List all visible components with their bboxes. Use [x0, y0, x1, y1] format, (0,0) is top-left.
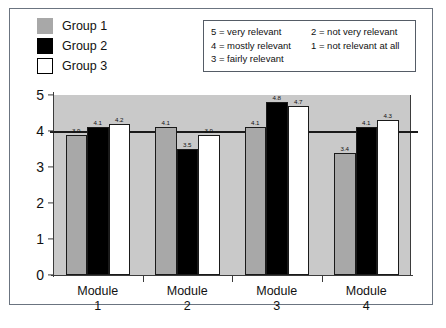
y-tick-mark: [48, 202, 54, 203]
y-tick-label: 4: [10, 123, 44, 139]
x-category-label: Module4: [346, 284, 387, 314]
x-tick-mark: [322, 275, 323, 282]
x-category-line: 4: [346, 299, 387, 314]
y-tick-mark: [48, 238, 54, 239]
scale-key-item-3: 3 = fairly relevant: [211, 52, 303, 66]
legend-label-group-3: Group 3: [62, 59, 107, 73]
y-axis-line: [53, 92, 54, 277]
bar-value-label: 3.9: [72, 127, 80, 134]
group-legend: Group 1 Group 2 Group 3: [37, 16, 107, 76]
chart-figure: Group 1 Group 2 Group 3 5 = very relevan…: [9, 8, 433, 305]
legend-label-group-2: Group 2: [62, 39, 107, 53]
bar-value-label: 4.1: [251, 119, 259, 126]
bar-value-label: 4.1: [362, 119, 370, 126]
y-tick-label: 1: [10, 231, 44, 247]
y-tick-mark: [48, 274, 54, 275]
scale-key-item-blank: [311, 52, 408, 66]
x-category-label: Module2: [167, 284, 208, 314]
legend-swatch-group-3: [37, 58, 53, 74]
bar: [245, 127, 267, 275]
x-category-line: 1: [77, 299, 118, 314]
bar-value-label: 4.3: [384, 112, 392, 119]
bar: [334, 153, 356, 275]
plot-wrapper: 012345 3.94.14.24.13.53.94.14.84.73.44.1…: [10, 88, 434, 303]
scale-key-item-2: 2 = not very relevant: [311, 25, 408, 39]
x-category-line: 2: [167, 299, 208, 314]
bar-value-label: 3.4: [341, 145, 349, 152]
y-tick-label: 0: [10, 267, 44, 283]
scale-key-item-5: 5 = very relevant: [211, 25, 303, 39]
legend-swatch-group-2: [37, 38, 53, 54]
x-category-label: Module1: [77, 284, 118, 314]
x-category-line: Module: [346, 284, 387, 299]
bar: [87, 127, 109, 275]
y-tick-mark: [48, 130, 54, 131]
bar: [109, 124, 131, 275]
bar: [288, 106, 310, 275]
bar-value-label: 3.5: [183, 141, 191, 148]
bar-value-label: 4.7: [294, 98, 302, 105]
bar: [377, 120, 399, 275]
bar-value-label: 4.8: [273, 94, 281, 101]
x-tick-mark: [143, 275, 144, 282]
scale-key-item-1: 1 = not relevant at all: [311, 39, 408, 53]
bar-value-label: 3.9: [205, 127, 213, 134]
x-category-line: Module: [77, 284, 118, 299]
legend-item-group-2: Group 2: [37, 36, 107, 56]
bar: [198, 135, 220, 275]
y-tick-mark: [48, 166, 54, 167]
x-tick-mark: [232, 275, 233, 282]
legend-item-group-1: Group 1: [37, 16, 107, 36]
legend-label-group-1: Group 1: [62, 19, 107, 33]
bar: [177, 149, 199, 275]
bar-value-label: 4.1: [162, 119, 170, 126]
x-category-line: 3: [256, 299, 297, 314]
legend-item-group-3: Group 3: [37, 56, 107, 76]
y-tick-mark: [48, 94, 54, 95]
bar-value-label: 4.1: [94, 119, 102, 126]
scale-key-item-4: 4 = mostly relevant: [211, 39, 303, 53]
bar: [356, 127, 378, 275]
y-tick-label: 2: [10, 195, 44, 211]
legend-swatch-group-1: [37, 18, 53, 34]
bar: [155, 127, 177, 275]
x-category-line: Module: [167, 284, 208, 299]
y-tick-label: 3: [10, 159, 44, 175]
bar-value-label: 4.2: [115, 116, 123, 123]
bar: [266, 102, 288, 275]
y-tick-label: 5: [10, 87, 44, 103]
bar: [66, 135, 88, 275]
x-category-label: Module3: [256, 284, 297, 314]
scale-key-box: 5 = very relevant 2 = not very relevant …: [203, 20, 416, 72]
x-category-line: Module: [256, 284, 297, 299]
